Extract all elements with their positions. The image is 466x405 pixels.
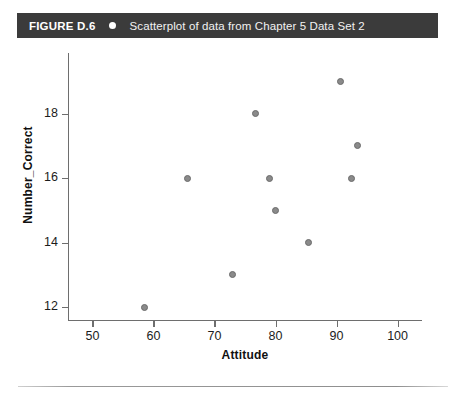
x-tick-mark (337, 321, 338, 327)
bullet-icon (109, 22, 116, 29)
x-tick-mark (276, 321, 277, 327)
scatter-data-point (229, 271, 236, 278)
scatter-data-point (337, 78, 344, 85)
x-tick-mark (398, 321, 399, 327)
y-tick-mark (62, 114, 68, 115)
scatter-data-point (252, 110, 259, 117)
x-tick-label: 70 (194, 329, 234, 343)
y-tick-mark (62, 178, 68, 179)
x-tick-label: 100 (378, 329, 418, 343)
figure-number-label: FIGURE D.6 (29, 20, 96, 32)
y-tick-label: 18 (18, 106, 58, 120)
x-tick-mark (214, 321, 215, 327)
x-tick-label: 50 (72, 329, 112, 343)
x-tick-label: 80 (256, 329, 296, 343)
y-axis-line (68, 53, 69, 321)
y-tick-label: 14 (18, 235, 58, 249)
scatterplot-canvas: Number_Correct Attitude 5060708090100121… (0, 38, 466, 385)
y-tick-mark (62, 243, 68, 244)
x-tick-label: 90 (317, 329, 357, 343)
scatter-data-point (184, 175, 191, 182)
x-axis-title: Attitude (68, 348, 422, 362)
y-tick-mark (62, 307, 68, 308)
scatter-data-point (266, 175, 273, 182)
x-tick-mark (92, 321, 93, 327)
y-tick-label: 12 (18, 299, 58, 313)
scatter-data-point (272, 207, 279, 214)
x-axis-line (68, 320, 422, 321)
scatter-data-point (305, 239, 312, 246)
figure-body: Number_Correct Attitude 5060708090100121… (0, 38, 466, 385)
figure-caption-bar: FIGURE D.6 Scatterplot of data from Chap… (17, 13, 438, 38)
page-divider-rule (18, 386, 448, 387)
scatter-data-point (348, 175, 355, 182)
scatter-data-point (354, 142, 361, 149)
scatter-data-point (141, 304, 148, 311)
x-tick-label: 60 (133, 329, 173, 343)
figure-caption-text: Scatterplot of data from Chapter 5 Data … (130, 20, 365, 32)
x-tick-mark (153, 321, 154, 327)
y-tick-label: 16 (18, 170, 58, 184)
